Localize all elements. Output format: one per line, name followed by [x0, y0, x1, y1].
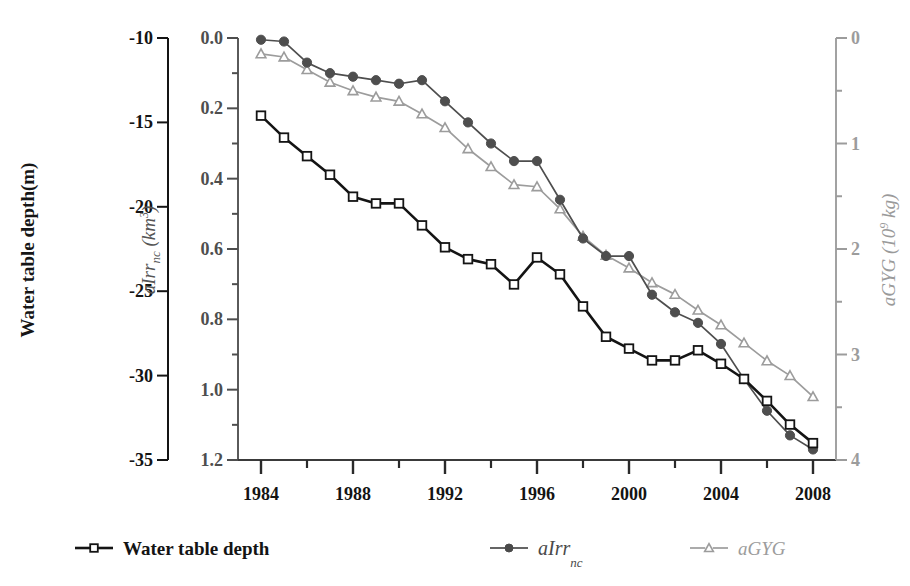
- data-point-marker: [785, 431, 794, 440]
- agyg-ticks: [836, 38, 847, 460]
- data-point-marker: [763, 397, 772, 406]
- data-point-marker: [601, 251, 610, 260]
- data-point-marker: [578, 234, 587, 243]
- x-axis-tick-label: 2004: [703, 484, 739, 504]
- legend-item-1[interactable]: aIrrnc: [490, 537, 583, 570]
- data-point-marker: [602, 332, 611, 341]
- data-point-marker: [694, 346, 703, 355]
- data-point-marker: [785, 371, 795, 380]
- data-point-marker: [418, 221, 427, 230]
- axis-agyg: 01234 aGYG (109 kg): [836, 28, 900, 470]
- x-axis-ticks: [261, 460, 813, 474]
- data-point-marker: [693, 318, 702, 327]
- data-point-marker: [510, 280, 519, 289]
- chart-legend: Water table depthaIrrncaGYG: [75, 537, 786, 570]
- agyg-axis-unit-open: (10: [878, 228, 900, 259]
- series-agyg: [256, 49, 818, 401]
- data-point-marker: [487, 260, 496, 269]
- legend-label-main: aGYG: [738, 538, 786, 559]
- data-point-marker: [463, 118, 472, 127]
- data-point-marker: [279, 37, 288, 46]
- data-point-marker: [716, 320, 726, 329]
- data-point-marker: [556, 270, 565, 279]
- data-point-marker: [256, 35, 265, 44]
- x-axis-tick-label: 2000: [611, 484, 647, 504]
- airr-nc-axis-label-sub: nc: [148, 251, 163, 264]
- axis-x-year: 1984198819921996200020042008: [238, 460, 836, 504]
- chart-svg: -10-15-20-25-30-35 Water table depth(m) …: [0, 0, 910, 586]
- legend-item-2[interactable]: aGYG: [690, 538, 786, 559]
- data-point-marker: [349, 192, 358, 201]
- data-point-marker: [555, 195, 564, 204]
- legend-marker: [505, 544, 513, 552]
- legend-label: aIrrnc: [538, 537, 583, 570]
- data-point-marker: [740, 375, 749, 384]
- aGYG-tick-label: 4: [851, 450, 860, 470]
- data-point-marker: [670, 308, 679, 317]
- legend-item-0[interactable]: Water table depth: [75, 538, 270, 559]
- agyg-axis-label: aGYG (109 kg): [877, 194, 900, 307]
- data-point-marker: [809, 439, 818, 448]
- data-point-marker: [464, 255, 473, 264]
- aIrr-nc-tick-label: 0.8: [201, 309, 224, 329]
- data-point-marker: [486, 139, 495, 148]
- airr-nc-axis-unit-close: ): [138, 206, 160, 213]
- data-point-marker: [303, 152, 312, 161]
- water-table-depth-tick-label: -15: [129, 112, 153, 132]
- aGYG-tick-label: 3: [851, 345, 860, 365]
- series-airr-nc: [256, 35, 817, 454]
- data-point-marker: [372, 199, 381, 208]
- series-line: [261, 54, 813, 397]
- data-point-marker: [395, 199, 404, 208]
- axis-airr-nc: 0.00.20.40.60.81.01.2 aIrrnc (km3): [137, 28, 238, 470]
- airr-nc-axis-unit-open: (km: [138, 218, 160, 251]
- data-point-marker: [648, 356, 657, 365]
- water-table-depth-axis-label: Water table depth(m): [17, 163, 39, 338]
- data-point-marker: [671, 356, 680, 365]
- chart-figure: -10-15-20-25-30-35 Water table depth(m) …: [0, 0, 910, 586]
- aGYG-tick-label: 0: [851, 28, 860, 48]
- legend-label-main: aIrr: [538, 537, 570, 559]
- agyg-axis-unit-close: kg): [878, 194, 900, 223]
- legend-label-sub: nc: [570, 555, 583, 570]
- data-point-marker: [257, 111, 266, 120]
- data-point-marker: [647, 290, 656, 299]
- aGYG-tick-label: 1: [851, 134, 860, 154]
- aGYG-tick-label: 2: [851, 239, 860, 259]
- water-table-depth-tick-label: -30: [129, 366, 153, 386]
- data-series-layer: [256, 35, 818, 454]
- data-point-marker: [394, 79, 403, 88]
- airr-nc-axis-label: aIrrnc (km3): [137, 206, 163, 294]
- data-point-marker: [647, 278, 657, 287]
- agyg-tick-labels: 01234: [851, 28, 860, 470]
- x-axis-tick-label: 2008: [795, 484, 831, 504]
- data-point-marker: [371, 76, 380, 85]
- data-point-marker: [256, 49, 266, 58]
- x-axis-tick-label: 1984: [243, 484, 279, 504]
- data-point-marker: [509, 156, 518, 165]
- legend-marker: [705, 544, 714, 552]
- data-point-marker: [532, 156, 541, 165]
- x-axis-tick-label: 1988: [335, 484, 371, 504]
- legend-label: aGYG: [738, 538, 786, 559]
- data-point-marker: [417, 109, 427, 118]
- data-point-marker: [325, 77, 335, 86]
- data-point-marker: [693, 305, 703, 314]
- data-point-marker: [717, 359, 726, 368]
- airr-nc-tick-labels: 0.00.20.40.60.81.01.2: [201, 28, 224, 470]
- airr-nc-axis-label-main: aIrr: [138, 263, 159, 294]
- aIrr-nc-tick-label: 0.0: [201, 28, 224, 48]
- legend-marker: [90, 544, 98, 552]
- x-axis-tick-label: 1996: [519, 484, 555, 504]
- data-point-marker: [417, 76, 426, 85]
- airr-nc-ticks: [227, 38, 238, 460]
- water-table-depth-tick-label: -35: [129, 450, 153, 470]
- aIrr-nc-tick-label: 0.2: [201, 98, 224, 118]
- agyg-axis-label-main: aGYG: [878, 259, 899, 307]
- data-point-marker: [440, 97, 449, 106]
- legend-label: Water table depth: [123, 538, 270, 559]
- data-point-marker: [579, 302, 588, 311]
- aIrr-nc-tick-label: 1.0: [201, 380, 224, 400]
- data-point-marker: [786, 420, 795, 429]
- data-point-marker: [762, 406, 771, 415]
